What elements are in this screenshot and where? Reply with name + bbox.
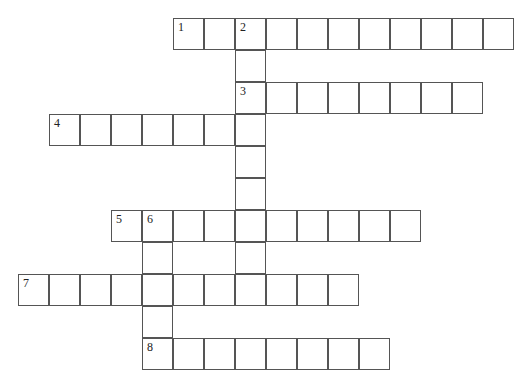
crossword-cell[interactable]: [80, 274, 111, 306]
crossword-cell[interactable]: [266, 18, 297, 50]
crossword-grid: 12345687: [0, 0, 521, 390]
clue-number: 7: [23, 276, 29, 290]
crossword-cell[interactable]: [111, 274, 142, 306]
crossword-cell[interactable]: [390, 210, 421, 242]
crossword-cell[interactable]: [204, 114, 235, 146]
crossword-cell[interactable]: [80, 114, 111, 146]
clue-number: 3: [240, 84, 246, 98]
crossword-cell[interactable]: [452, 18, 483, 50]
crossword-cell[interactable]: 4: [49, 114, 80, 146]
crossword-cell[interactable]: [235, 210, 266, 242]
crossword-cell[interactable]: [359, 338, 390, 370]
crossword-cell[interactable]: 2: [235, 18, 266, 50]
crossword-cell[interactable]: [297, 82, 328, 114]
clue-number: 8: [147, 340, 153, 354]
crossword-cell[interactable]: [390, 82, 421, 114]
clue-number: 2: [240, 20, 246, 34]
crossword-cell[interactable]: [173, 338, 204, 370]
crossword-cell[interactable]: [173, 114, 204, 146]
crossword-cell[interactable]: 1: [173, 18, 204, 50]
crossword-cell[interactable]: [483, 18, 514, 50]
crossword-cell[interactable]: 5: [111, 210, 142, 242]
crossword-cell[interactable]: [359, 210, 390, 242]
crossword-cell[interactable]: 8: [142, 338, 173, 370]
crossword-cell[interactable]: [328, 210, 359, 242]
crossword-cell[interactable]: [266, 210, 297, 242]
crossword-cell[interactable]: [297, 274, 328, 306]
clue-number: 5: [116, 212, 122, 226]
crossword-cell[interactable]: [452, 82, 483, 114]
crossword-cell[interactable]: [266, 82, 297, 114]
crossword-cell[interactable]: [235, 338, 266, 370]
crossword-cell[interactable]: [142, 306, 173, 338]
crossword-cell[interactable]: [235, 242, 266, 274]
crossword-cell[interactable]: [421, 82, 452, 114]
crossword-cell[interactable]: [297, 210, 328, 242]
crossword-cell[interactable]: [173, 210, 204, 242]
crossword-cell[interactable]: [328, 338, 359, 370]
crossword-cell[interactable]: [235, 146, 266, 178]
clue-number: 6: [147, 212, 153, 226]
crossword-cell[interactable]: [142, 114, 173, 146]
crossword-cell[interactable]: 7: [18, 274, 49, 306]
crossword-cell[interactable]: [359, 18, 390, 50]
crossword-cell[interactable]: [204, 338, 235, 370]
crossword-cell[interactable]: [297, 338, 328, 370]
crossword-cell[interactable]: [235, 274, 266, 306]
crossword-cell[interactable]: [204, 210, 235, 242]
crossword-cell[interactable]: [142, 274, 173, 306]
crossword-cell[interactable]: [359, 82, 390, 114]
crossword-cell[interactable]: [173, 274, 204, 306]
crossword-cell[interactable]: [204, 18, 235, 50]
crossword-cell[interactable]: 6: [142, 210, 173, 242]
crossword-cell[interactable]: [328, 82, 359, 114]
crossword-cell[interactable]: [49, 274, 80, 306]
crossword-cell[interactable]: [266, 274, 297, 306]
crossword-cell[interactable]: [390, 18, 421, 50]
crossword-cell[interactable]: [297, 18, 328, 50]
crossword-cell[interactable]: [328, 274, 359, 306]
crossword-cell[interactable]: [235, 114, 266, 146]
crossword-cell[interactable]: [235, 178, 266, 210]
crossword-cell[interactable]: [235, 50, 266, 82]
crossword-cell[interactable]: [204, 274, 235, 306]
crossword-cell[interactable]: [266, 338, 297, 370]
crossword-cell[interactable]: [142, 242, 173, 274]
clue-number: 1: [178, 20, 184, 34]
crossword-cell[interactable]: 3: [235, 82, 266, 114]
clue-number: 4: [54, 116, 60, 130]
crossword-cell[interactable]: [111, 114, 142, 146]
crossword-cell[interactable]: [328, 18, 359, 50]
crossword-cell[interactable]: [421, 18, 452, 50]
